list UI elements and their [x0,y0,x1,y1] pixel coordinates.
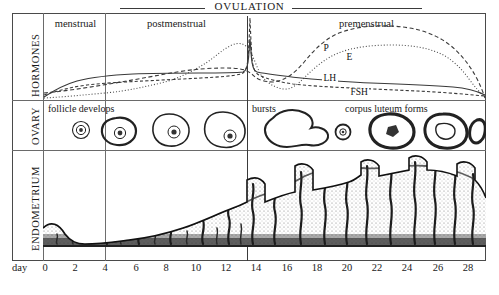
axis-tick-22: 22 [372,262,383,273]
ovary-follicle-series [43,100,486,150]
axis-tick-8: 8 [163,262,168,273]
follicle-stage-3 [153,114,189,146]
follicle-stage-1 [73,122,90,139]
axis-tick-10: 10 [191,262,202,273]
menstrual-cycle-diagram: OVULATION HORMONES OVARY ENDOMETRIUM men… [0,0,499,295]
axis-tick-2: 2 [72,262,77,273]
axis-tick-26: 26 [433,262,444,273]
ovulation-rule-left [120,8,205,9]
corpus-luteum-stage-2 [425,114,467,148]
day-axis: day 0 2 4 6 8 10 12 14 16 18 20 22 24 26… [0,262,499,295]
curve-fsh [44,39,485,97]
hormone-curves [43,13,486,100]
axis-title-day: day [12,262,27,273]
axis-tick-16: 16 [282,262,293,273]
curve-progesterone [44,26,485,98]
follicle-stage-5-mature [265,110,328,147]
corpus-albicans [470,120,486,143]
ovulation-title: OVULATION [211,0,289,12]
axis-tick-14: 14 [251,262,262,273]
follicle-stage-2 [102,118,136,145]
axis-tick-20: 20 [342,262,353,273]
curve-label-P: P [322,44,330,54]
axis-tick-24: 24 [402,262,413,273]
axis-tick-28: 28 [463,262,474,273]
axis-tick-12: 12 [221,262,232,273]
curve-label-E: E [345,53,354,63]
ovulation-rule-right [292,8,422,9]
endometrium-lining [43,150,486,261]
axis-tick-18: 18 [312,262,323,273]
endometrium-tissue [43,150,486,261]
curve-label-LH: LH [322,74,338,84]
curve-estrogen [44,43,485,98]
axis-tick-4: 4 [102,262,107,273]
axis-tick-6: 6 [133,262,138,273]
corpus-luteum-stage-1 [370,114,414,148]
axis-tick-0: 0 [42,262,47,273]
released-ovum [336,125,351,140]
curve-label-FSH: FSH [349,88,369,98]
follicle-stage-4 [205,112,245,147]
